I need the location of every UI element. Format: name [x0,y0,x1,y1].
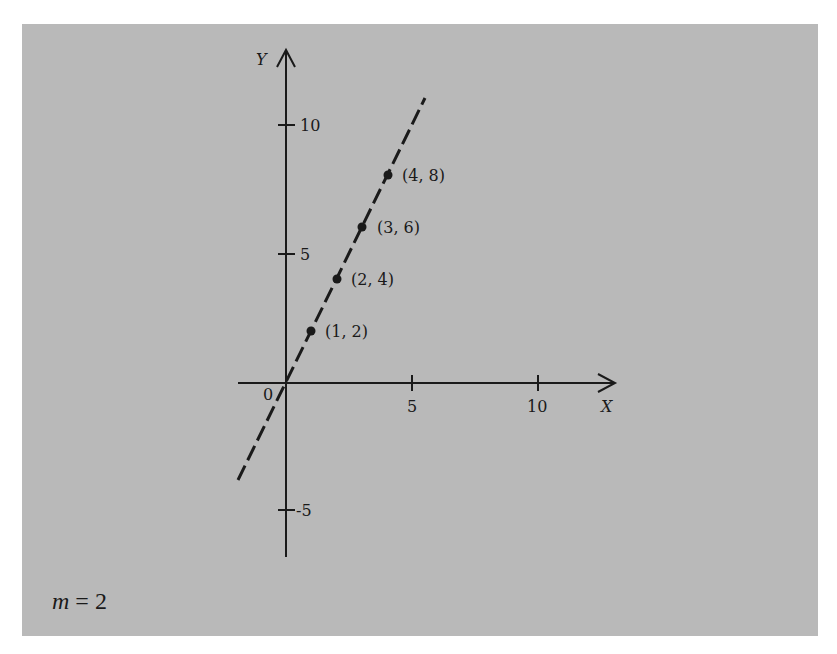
y-tick-label-neg5: -5 [296,501,312,520]
y-axis-label: Y [256,50,268,69]
x-tick-label-10: 10 [527,397,547,416]
origin-label: 0 [263,385,273,404]
x-axis-label: X [599,397,613,416]
point-label: (4, 8) [402,166,445,185]
x-tick-label-5: 5 [407,397,417,416]
data-point [358,223,367,232]
data-point [384,171,393,180]
slope-variable: m [52,588,69,614]
slope-caption: m = 2 [52,588,107,615]
data-point [307,327,316,336]
data-point [333,275,342,284]
y-tick-label-10: 10 [300,116,320,135]
slope-value: = 2 [69,588,107,614]
data-line [238,98,425,480]
point-label: (3, 6) [377,218,420,237]
y-tick-label-5: 5 [300,245,310,264]
point-label: (2, 4) [351,270,394,289]
point-label: (1, 2) [325,322,368,341]
line-chart: (1, 2) (2, 4) (3, 6) (4, 8) 10 5 -5 5 10… [0,0,837,654]
